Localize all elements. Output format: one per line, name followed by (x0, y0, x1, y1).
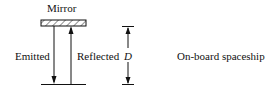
diagram-graphics (0, 0, 275, 90)
reflected-beam-arrow (69, 26, 74, 84)
emitted-label: Emitted (15, 51, 50, 62)
emitted-beam-arrow (52, 26, 57, 84)
light-clock-diagram: Mirror Emitted Reflected D On-board spac… (0, 0, 275, 90)
mirror (41, 20, 86, 26)
frame-label: On-board spaceship (177, 51, 265, 62)
distance-label: D (124, 51, 132, 62)
reflected-label: Reflected (77, 51, 119, 62)
mirror-label: Mirror (47, 3, 76, 14)
